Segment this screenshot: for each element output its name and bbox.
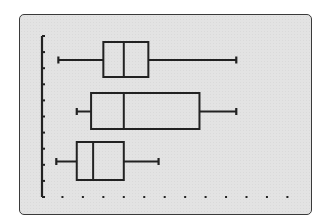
x-axis-dot — [286, 196, 288, 198]
x-axis-dot — [61, 196, 63, 198]
x-axis-dot — [266, 196, 268, 198]
x-axis-dot — [82, 196, 84, 198]
y-axis — [42, 36, 45, 197]
x-axis-tick-dots — [61, 196, 288, 198]
x-axis-dot — [143, 196, 145, 198]
x-axis-dot — [123, 196, 125, 198]
box-plots — [56, 42, 236, 180]
box-plot-2 — [77, 93, 237, 129]
boxplot-chart — [0, 0, 327, 221]
x-axis-dot — [102, 196, 104, 198]
x-axis-dot — [225, 196, 227, 198]
x-axis-dot — [246, 196, 248, 198]
x-axis-dot — [164, 196, 166, 198]
x-axis-dot — [184, 196, 186, 198]
box-plot-1 — [58, 42, 236, 77]
iqr-box — [103, 42, 148, 77]
iqr-box — [77, 142, 124, 180]
x-axis-dot — [205, 196, 207, 198]
iqr-box — [91, 93, 199, 129]
box-plot-3 — [56, 142, 158, 180]
